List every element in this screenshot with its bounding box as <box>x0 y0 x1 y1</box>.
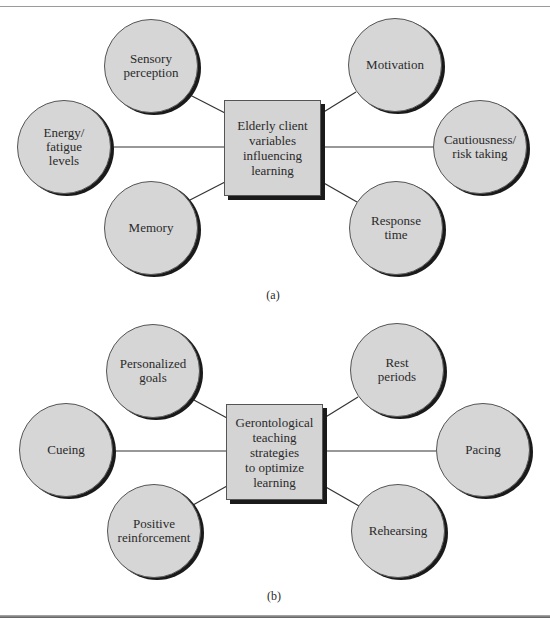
node-label: Response time <box>371 214 421 242</box>
node-label: Personalized goals <box>120 357 186 385</box>
center-box-label: Elderly client variables influencing lea… <box>237 118 307 178</box>
node-label: Motivation <box>366 58 424 72</box>
center-box-gerontological-teaching-strategies: Gerontological teaching strategies to op… <box>226 404 323 500</box>
node-label: Rest periods <box>378 356 416 384</box>
node-energy-fatigue-levels: Energy/ fatigue levels <box>17 100 111 194</box>
center-box-elderly-client-variables: Elderly client variables influencing lea… <box>224 100 321 196</box>
node-response-time: Response time <box>349 181 443 275</box>
connector-a-bottom-left <box>190 182 225 200</box>
caption-a: (a) <box>253 288 293 303</box>
connector-b-bottom-left <box>193 486 227 505</box>
node-cautiousness-risk-taking: Cautiousness/ risk taking <box>433 100 527 194</box>
node-memory: Memory <box>104 181 198 275</box>
node-label: Energy/ fatigue levels <box>44 126 85 168</box>
node-pacing: Pacing <box>436 403 530 497</box>
node-label: Sensory perception <box>124 52 179 80</box>
node-label: Rehearsing <box>369 524 427 538</box>
node-label: Cautiousness/ risk taking <box>444 133 516 161</box>
node-sensory-perception: Sensory perception <box>104 19 198 113</box>
connector-a-bottom-right <box>322 182 357 202</box>
node-cueing: Cueing <box>19 403 113 497</box>
node-positive-reinforcement: Positive reinforcement <box>107 484 201 578</box>
node-motivation: Motivation <box>348 18 442 112</box>
caption-b: (b) <box>254 589 294 604</box>
center-box-label: Gerontological teaching strategies to op… <box>236 415 314 490</box>
node-label: Memory <box>129 221 174 235</box>
connector-a-top-right <box>322 92 356 113</box>
connector-b-top-right <box>324 397 358 418</box>
bottom-rule <box>0 615 550 618</box>
node-label: Positive reinforcement <box>118 517 191 545</box>
node-label: Cueing <box>47 443 85 457</box>
connector-lines <box>0 0 550 620</box>
connector-b-bottom-right <box>324 486 359 506</box>
node-rehearsing: Rehearsing <box>351 484 445 578</box>
connector-b-top-left <box>192 399 227 418</box>
node-personalized-goals: Personalized goals <box>106 324 200 418</box>
node-rest-periods: Rest periods <box>350 323 444 417</box>
node-label: Pacing <box>465 443 500 457</box>
connector-a-top-left <box>190 95 225 113</box>
